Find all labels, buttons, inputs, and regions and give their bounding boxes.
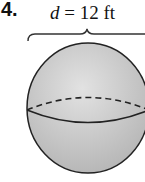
brace xyxy=(28,29,145,41)
sphere-figure xyxy=(0,0,145,182)
sphere-body xyxy=(27,43,145,173)
